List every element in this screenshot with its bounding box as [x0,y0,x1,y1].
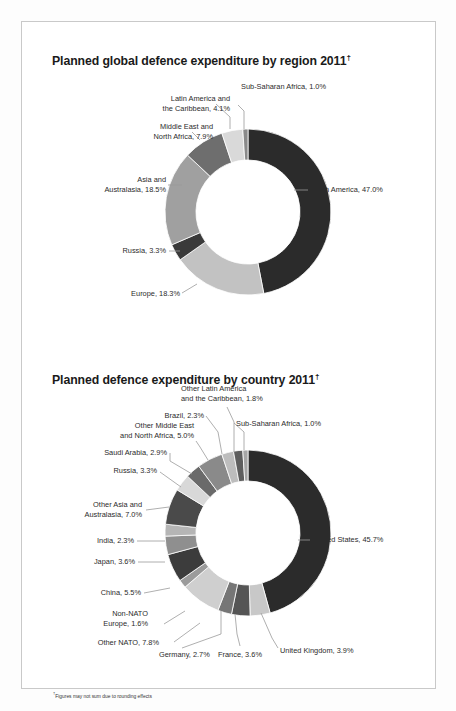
chart1-segments [165,129,331,295]
leader-line [196,441,208,460]
leader-line [182,284,197,293]
chart2-title-marker: † [315,372,319,381]
leader-line [170,453,192,474]
chart2-label-japan: Japan, 3.6% [42,557,135,567]
chart1-label-subsaharan: Sub-Saharan Africa, 1.0% [241,82,326,92]
donut-segment [248,450,331,613]
donut-segment [233,450,244,482]
footnote-text: Figures may not sum due to rounding effe… [55,694,152,699]
donut-segment [222,129,245,162]
leader-line [238,105,244,129]
chart2-label-russia: Russia, 3.3% [42,466,157,476]
donut-segment [165,155,210,245]
chart2-label-saudi: Saudi Arabia, 2.9% [42,448,167,458]
donut-segment [185,567,229,610]
leader-line [227,407,234,452]
chart1-label-russia: Russia, 3.3% [52,246,166,256]
chart1-label-latin-america: Latin America and the Caribbean, 4.1% [62,94,230,113]
donut-segment [222,451,239,483]
chart2-label-other-latin: Other Latin America and the Caribbean, 1… [181,384,263,403]
leader-line [206,416,222,454]
chart2-segments [165,450,331,616]
donut-segment [243,450,248,481]
chart1-title: Planned global defence expenditure by re… [52,53,351,68]
donut-segment [249,583,270,616]
chart2-label-germany: Germany, 2.7% [159,650,210,660]
donut-segment [199,454,232,491]
donut-segment [243,129,248,160]
chart2-label-uk: United Kingdom, 3.9% [280,646,354,656]
chart1-label-asia: Asia and Australasia, 18.5% [42,175,166,194]
chart2-label-nonnato: Non-NATO Europe, 1.6% [42,609,148,628]
leader-line [164,611,185,624]
chart2-label-other-asia: Other Asia and Australasia, 7.0% [32,500,142,519]
chart2-label-france: France, 3.6% [218,650,262,660]
donut-segment [177,476,210,506]
figure-panel: Planned global defence expenditure by re… [21,21,436,689]
donut-segment [231,584,250,616]
chart1-title-marker: † [346,53,350,62]
leader-line [146,507,169,510]
chart1-title-text: Planned global defence expenditure by re… [52,54,346,68]
chart2-label-other-nato: Other NATO, 7.8% [32,638,159,648]
donut-segment [187,466,217,497]
donut-segment [248,129,331,293]
chart2-label-china: China, 5.5% [42,588,141,598]
leader-line [174,623,200,642]
chart2-label-india: India, 2.3% [42,536,134,546]
footnote: †Figures may not sum due to rounding eff… [53,691,152,699]
donut-segment [168,547,205,581]
chart1-label-north-america: North America, 47.0% [311,185,383,195]
leader-line [261,613,278,648]
donut-segment [218,581,238,614]
donut-segment [180,242,264,295]
donut-segment [165,490,203,528]
chart2-label-other-mena: Other Middle East and North Africa, 5.0% [52,421,194,440]
page-background: Planned global defence expenditure by re… [0,0,456,711]
chart1-label-europe: Europe, 18.3% [52,289,180,299]
donut-segment [180,563,209,587]
chart2-label-brazil: Brazil, 2.3% [82,411,204,421]
donut-segment [165,524,196,536]
chart2-label-united-states: United States, 45.7% [314,535,383,545]
leader-line [182,611,221,648]
donut-segment [165,535,198,555]
leader-line [235,614,240,646]
chart1-label-mena: Middle East and North Africa, 7.9% [62,122,213,141]
leader-line [160,472,181,487]
leader-line [144,588,170,593]
donut-segment [172,233,206,260]
chart2-leader-lines [137,407,310,648]
chart2-label-subsaharan: Sub-Saharan Africa, 1.0% [236,419,321,429]
